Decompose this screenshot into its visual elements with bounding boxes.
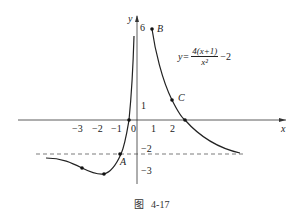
point-left-root	[127, 118, 131, 122]
point-A-label: A	[120, 157, 126, 167]
equation-lhs: y=	[178, 51, 189, 62]
point-C-label: C	[178, 93, 185, 103]
point-right-root	[183, 118, 187, 122]
figure-caption: 图 4-17	[0, 196, 303, 211]
point-B	[150, 27, 154, 31]
equation-numerator: 4(x+1)	[191, 46, 218, 57]
equation-suffix: −2	[220, 51, 231, 62]
point-B-label: B	[157, 24, 163, 34]
y-tick-label: −3	[141, 166, 152, 176]
y-tick-label: −2	[141, 144, 152, 154]
x-axis-label: x	[281, 124, 285, 134]
x-tick-label: −2	[92, 124, 103, 134]
point-minimum	[102, 172, 106, 176]
y-tick-label: 1	[141, 101, 146, 111]
x-axis-arrow-icon	[279, 118, 286, 122]
point-C	[170, 98, 174, 102]
caption-number: 4-17	[151, 199, 169, 210]
x-tick-label: −1	[111, 124, 122, 134]
equation-denominator: x²	[201, 57, 208, 67]
function-graph	[0, 0, 303, 213]
caption-prefix: 图	[134, 199, 144, 210]
y-tick-label: 6	[140, 23, 145, 33]
y-axis-arrow-icon	[135, 15, 139, 22]
function-equation: y= 4(x+1) x² −2	[178, 46, 231, 67]
x-tick-label: 1	[151, 124, 156, 134]
origin-label: 0	[131, 124, 136, 134]
x-tick-label: −3	[72, 124, 83, 134]
point-inflection	[80, 166, 84, 170]
y-axis-label: y	[128, 14, 132, 24]
x-tick-label: 2	[170, 124, 175, 134]
